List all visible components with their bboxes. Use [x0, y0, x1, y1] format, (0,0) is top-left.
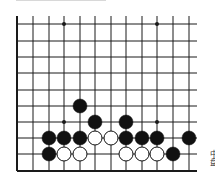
- black-stone: [73, 99, 87, 113]
- white-stone: [119, 147, 133, 161]
- star-point: [62, 22, 66, 26]
- white-stone: [73, 147, 87, 161]
- black-stone: [182, 131, 196, 145]
- black-stone: [150, 131, 164, 145]
- white-stone: [57, 147, 71, 161]
- white-stone: [88, 131, 102, 145]
- star-point: [155, 120, 159, 124]
- star-point: [62, 120, 66, 124]
- white-stone: [104, 131, 118, 145]
- black-stone: [119, 131, 133, 145]
- side-caption: 中盘: [207, 150, 215, 166]
- star-point: [155, 22, 159, 26]
- white-stone: [135, 147, 149, 161]
- black-stone: [88, 115, 102, 129]
- white-stone: [150, 147, 164, 161]
- black-stone: [119, 115, 133, 129]
- black-stone: [73, 131, 87, 145]
- go-board: [0, 0, 215, 184]
- black-stone: [166, 147, 180, 161]
- black-stone: [42, 131, 56, 145]
- black-stone: [57, 131, 71, 145]
- black-stone: [135, 131, 149, 145]
- black-stone: [42, 147, 56, 161]
